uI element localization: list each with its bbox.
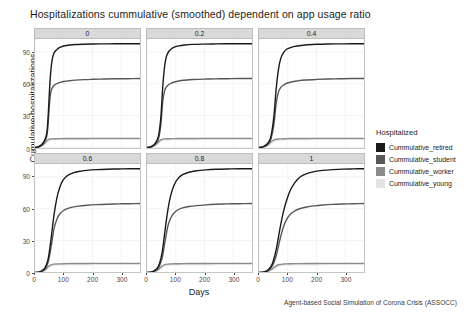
x-tick-mark <box>63 273 64 275</box>
series-line-Cummulative_student <box>147 203 252 272</box>
y-tick-label: 30 <box>23 113 30 120</box>
x-tick-mark <box>175 273 176 275</box>
y-tick-label: 0 <box>26 145 30 152</box>
x-tick-label: 300 <box>228 276 239 283</box>
series-line-Cummulative_retired <box>259 44 364 148</box>
plot-area <box>146 164 253 274</box>
x-tick-mark <box>317 273 318 275</box>
legend-swatch-icon <box>376 179 385 188</box>
facet-strip-label: 0 <box>34 28 141 39</box>
plot-area <box>34 164 141 274</box>
x-tick-mark <box>258 273 259 275</box>
x-tick-mark <box>146 273 147 275</box>
legend-item[interactable]: Cummulative_young <box>376 177 456 189</box>
chart-caption: Agent-based Social Simulation of Corona … <box>0 299 457 306</box>
x-tick-label: 0 <box>144 276 148 283</box>
y-tick-label: 90 <box>23 48 30 55</box>
legend-item[interactable]: Cummulative_student <box>376 153 456 165</box>
x-tick-mark <box>287 273 288 275</box>
series-line-Cummulative_young <box>147 139 252 147</box>
plot-area <box>258 39 365 149</box>
plot-area <box>146 39 253 149</box>
legend-item-label: Cummulative_worker <box>389 168 454 175</box>
x-tick-mark <box>93 273 94 275</box>
x-tick-mark <box>234 273 235 275</box>
legend-item-label: Cummulative_young <box>389 180 452 187</box>
series-line-Cummulative_retired <box>259 168 364 272</box>
y-tick-label: 60 <box>23 205 30 212</box>
plot-area <box>34 39 141 149</box>
x-axis-title: Days <box>34 287 364 297</box>
plot-area <box>258 164 365 274</box>
legend: Hospitalized Cummulative_retiredCummulat… <box>376 128 456 189</box>
x-tick-mark <box>205 273 206 275</box>
x-tick-label: 0 <box>256 276 260 283</box>
x-tick-label: 100 <box>58 276 69 283</box>
x-tick-label: 200 <box>199 276 210 283</box>
x-tick-label: 200 <box>311 276 322 283</box>
legend-item-label: Cummulative_student <box>389 156 456 163</box>
page-title: Hospitalizations cummulative (smoothed) … <box>30 8 371 20</box>
y-tick-label: 0 <box>26 270 30 277</box>
facet-grid: 00.20.40.60.81 <box>34 28 365 273</box>
legend-swatch-icon <box>376 143 385 152</box>
facet-strip-label: 0.4 <box>258 28 365 39</box>
facet-panel-0.8: 0.8 <box>146 153 253 274</box>
gridlines <box>259 39 364 148</box>
facet-panel-1: 1 <box>258 153 365 274</box>
x-tick-label: 200 <box>87 276 98 283</box>
x-tick-label: 100 <box>282 276 293 283</box>
x-tick-label: 100 <box>170 276 181 283</box>
legend-items: Cummulative_retiredCummulative_studentCu… <box>376 141 456 189</box>
x-tick-mark <box>34 273 35 275</box>
legend-item[interactable]: Cummulative_retired <box>376 141 456 153</box>
facet-strip-label: 0.2 <box>146 28 253 39</box>
x-tick-label: 300 <box>340 276 351 283</box>
series-line-Cummulative_retired <box>35 168 140 272</box>
legend-swatch-icon <box>376 155 385 164</box>
gridlines <box>35 164 140 273</box>
chart-figure: Hospitalizations cummulative (smoothed) … <box>0 0 465 318</box>
series-line-Cummulative_young <box>259 139 364 147</box>
legend-swatch-icon <box>376 167 385 176</box>
facet-strip-label: 1 <box>258 153 365 164</box>
facet-strip-label: 0.8 <box>146 153 253 164</box>
legend-item[interactable]: Cummulative_worker <box>376 165 456 177</box>
x-tick-label: 0 <box>32 276 36 283</box>
series-line-Cummulative_retired <box>147 44 252 148</box>
facet-panel-0.4: 0.4 <box>258 28 365 149</box>
facet-strip-label: 0.6 <box>34 153 141 164</box>
series-line-Cummulative_student <box>259 203 364 272</box>
y-tick-label: 30 <box>23 237 30 244</box>
series-line-Cummulative_young <box>259 264 364 272</box>
facet-panel-0: 0 <box>34 28 141 149</box>
facet-panel-0.2: 0.2 <box>146 28 253 149</box>
legend-item-label: Cummulative_retired <box>389 144 453 151</box>
y-tick-label: 60 <box>23 81 30 88</box>
x-tick-mark <box>346 273 347 275</box>
legend-title: Hospitalized <box>376 128 456 137</box>
series-line-Cummulative_student <box>35 79 140 148</box>
x-tick-mark <box>122 273 123 275</box>
facet-panel-0.6: 0.6 <box>34 153 141 274</box>
y-tick-label: 90 <box>23 173 30 180</box>
x-tick-label: 300 <box>116 276 127 283</box>
series-line-Cummulative_young <box>35 139 140 147</box>
